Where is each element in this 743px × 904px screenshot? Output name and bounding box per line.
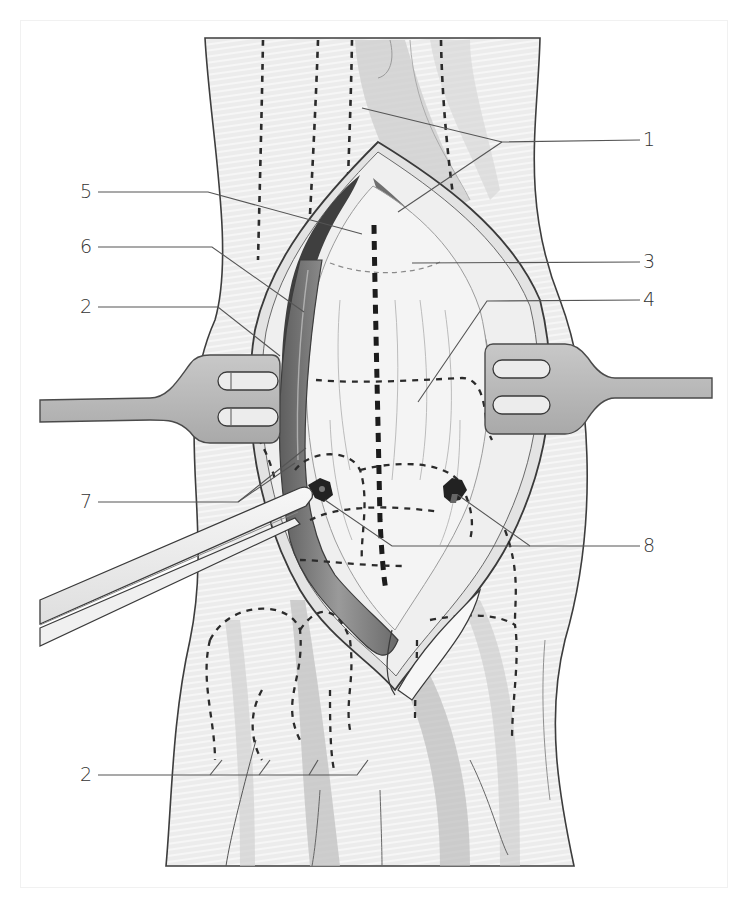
callout-label-1: 1 — [643, 130, 655, 149]
retractor-left — [40, 355, 280, 443]
callout-label-2-lower: 2 — [80, 765, 92, 784]
callout-label-6: 6 — [80, 237, 92, 256]
surgical-illustration — [0, 0, 743, 904]
callout-label-2-upper: 2 — [80, 297, 92, 316]
retractor-right — [485, 344, 712, 434]
callout-label-5: 5 — [80, 182, 92, 201]
callout-label-8: 8 — [643, 536, 655, 555]
callout-label-3: 3 — [643, 252, 655, 271]
callout-label-4: 4 — [643, 290, 655, 309]
callout-label-7: 7 — [80, 492, 92, 511]
